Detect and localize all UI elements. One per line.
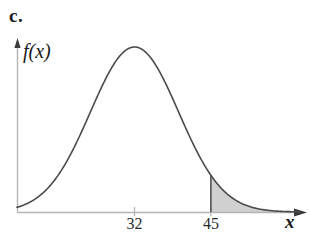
figure-panel: c. f(x) x 32 45 [0, 0, 309, 240]
x-axis-ticks [135, 207, 211, 216]
tick-label-45: 45 [203, 216, 219, 232]
y-axis-arrowhead [14, 38, 20, 48]
density-curve [17, 47, 299, 212]
normal-curve-plot [0, 0, 309, 240]
tick-label-32: 32 [127, 216, 143, 232]
shaded-tail-region [211, 175, 299, 212]
